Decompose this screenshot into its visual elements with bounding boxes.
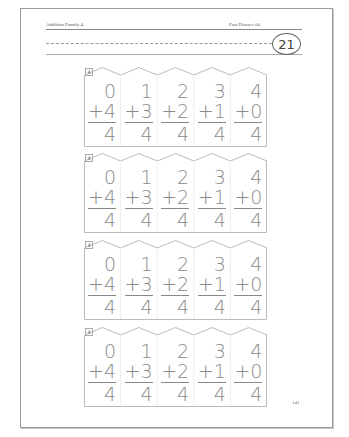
addend-top: 2 <box>177 341 189 361</box>
worksheet-title: Addition Family 4 <box>46 22 83 27</box>
house-tag: 4 <box>85 241 93 249</box>
addend-top: 0 <box>104 167 116 187</box>
addition-fact: 1+34 <box>121 81 157 145</box>
sum: 4 <box>214 384 226 404</box>
addition-fact: 1+34 <box>121 341 157 405</box>
addend-top: 3 <box>214 254 226 274</box>
addition-fact: 3+14 <box>194 81 230 145</box>
addend-top: 3 <box>214 167 226 187</box>
addend-bottom: +4 <box>88 101 116 121</box>
page-badge: 21 <box>272 33 301 55</box>
addition-fact: 2+24 <box>157 167 193 231</box>
name-dashed-line <box>46 43 272 44</box>
addend-top: 1 <box>141 254 153 274</box>
addition-fact: 4+04 <box>230 254 266 318</box>
sum: 4 <box>250 124 262 144</box>
addend-top: 3 <box>214 81 226 101</box>
fact-house: 40+441+342+243+144+04 <box>84 327 267 407</box>
sum: 4 <box>214 124 226 144</box>
sum: 4 <box>141 384 153 404</box>
fact-house: 40+441+342+243+144+04 <box>84 153 267 233</box>
sum: 4 <box>104 124 116 144</box>
worksheet-subtitle: Fact Houses #4 <box>229 22 260 27</box>
addend-bottom: +3 <box>125 187 153 207</box>
addend-top: 0 <box>104 81 116 101</box>
addition-fact: 4+04 <box>230 167 266 231</box>
addend-top: 4 <box>250 254 262 274</box>
header-bottom-rule <box>46 54 302 55</box>
addend-top: 1 <box>141 81 153 101</box>
addend-top: 4 <box>250 81 262 101</box>
sum: 4 <box>104 297 116 317</box>
addition-fact: 0+44 <box>84 254 120 318</box>
addend-bottom: +3 <box>125 361 153 381</box>
addend-bottom: +4 <box>88 274 116 294</box>
addend-top: 1 <box>141 341 153 361</box>
addend-bottom: +3 <box>125 101 153 121</box>
sum: 4 <box>250 384 262 404</box>
addend-bottom: +0 <box>234 101 262 121</box>
fact-house: 40+441+342+243+144+04 <box>84 240 267 320</box>
addition-fact: 2+24 <box>157 81 193 145</box>
addition-fact: 0+44 <box>84 167 120 231</box>
addend-bottom: +1 <box>198 101 226 121</box>
addend-top: 2 <box>177 254 189 274</box>
addition-fact: 0+44 <box>84 341 120 405</box>
addend-bottom: +1 <box>198 361 226 381</box>
sum: 4 <box>141 297 153 317</box>
page-number: 141 <box>292 400 300 405</box>
addition-fact: 4+04 <box>230 341 266 405</box>
fact-house: 40+441+342+243+144+04 <box>84 67 267 147</box>
sum: 4 <box>104 384 116 404</box>
addition-fact: 2+24 <box>157 254 193 318</box>
addend-bottom: +4 <box>88 361 116 381</box>
sum: 4 <box>141 124 153 144</box>
addend-bottom: +1 <box>198 187 226 207</box>
addend-top: 4 <box>250 167 262 187</box>
sum: 4 <box>177 124 189 144</box>
addition-fact: 4+04 <box>230 81 266 145</box>
addend-bottom: +3 <box>125 274 153 294</box>
addend-bottom: +0 <box>234 274 262 294</box>
addition-fact: 1+34 <box>121 167 157 231</box>
sum: 4 <box>214 297 226 317</box>
addend-top: 4 <box>250 341 262 361</box>
addend-top: 0 <box>104 341 116 361</box>
addend-bottom: +4 <box>88 187 116 207</box>
addend-bottom: +2 <box>161 187 189 207</box>
addend-top: 2 <box>177 81 189 101</box>
addend-bottom: +2 <box>161 361 189 381</box>
sum: 4 <box>250 297 262 317</box>
sum: 4 <box>141 210 153 230</box>
house-tag: 4 <box>85 68 93 76</box>
house-tag: 4 <box>85 328 93 336</box>
addition-fact: 2+24 <box>157 341 193 405</box>
house-tag: 4 <box>85 154 93 162</box>
addend-bottom: +1 <box>198 274 226 294</box>
addend-top: 2 <box>177 167 189 187</box>
sum: 4 <box>214 210 226 230</box>
header-rule <box>46 29 302 30</box>
addition-fact: 3+14 <box>194 341 230 405</box>
addend-top: 3 <box>214 341 226 361</box>
addition-fact: 1+34 <box>121 254 157 318</box>
addend-bottom: +0 <box>234 187 262 207</box>
sum: 4 <box>177 297 189 317</box>
sum: 4 <box>104 210 116 230</box>
addition-fact: 0+44 <box>84 81 120 145</box>
sum: 4 <box>250 210 262 230</box>
addition-fact: 3+14 <box>194 254 230 318</box>
sum: 4 <box>177 384 189 404</box>
addend-top: 1 <box>141 167 153 187</box>
addend-bottom: +2 <box>161 274 189 294</box>
sum: 4 <box>177 210 189 230</box>
addition-fact: 3+14 <box>194 167 230 231</box>
addend-bottom: +0 <box>234 361 262 381</box>
addend-top: 0 <box>104 254 116 274</box>
addend-bottom: +2 <box>161 101 189 121</box>
